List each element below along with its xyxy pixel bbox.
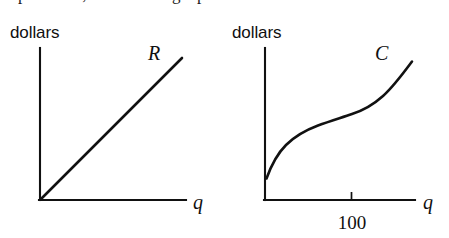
figures-svg-canvas: dollars q R dollars q C 100 (0, 0, 449, 238)
cost-y-axis-label: dollars (232, 23, 281, 42)
cost-x-tick-label-100: 100 (338, 212, 367, 233)
revenue-y-axis-label: dollars (10, 23, 59, 42)
cost-s-curve (267, 62, 413, 179)
revenue-x-axis-label: q (193, 191, 203, 214)
revenue-line-curve (41, 58, 182, 199)
revenue-curve-label: R (147, 42, 160, 64)
cost-curve-label: C (375, 42, 389, 64)
cost-x-axis-label: q (423, 191, 433, 214)
cost-figure-group (264, 48, 415, 201)
figure-pair-container: a problem, and these graphs dollars q R … (0, 0, 449, 238)
revenue-figure-group (39, 48, 186, 200)
